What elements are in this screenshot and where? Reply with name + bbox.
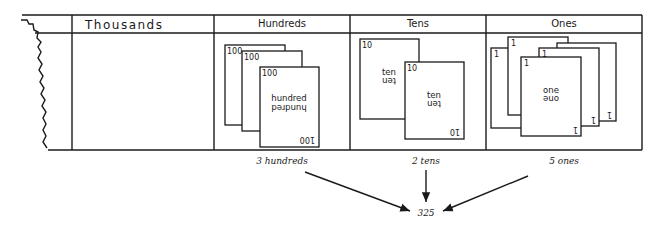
header-tens: Tens: [406, 18, 429, 29]
svg-text:10: 10: [362, 41, 372, 50]
svg-text:hundred: hundred: [271, 103, 307, 113]
svg-text:10: 10: [450, 127, 460, 136]
svg-text:ten: ten: [382, 76, 396, 86]
hundred-card: 100 hundred hundred 100: [260, 67, 319, 147]
header-hundreds: Hundreds: [258, 18, 306, 29]
svg-text:hundred: hundred: [271, 93, 307, 103]
svg-text:ten: ten: [427, 90, 441, 100]
arrow-ones: [443, 176, 528, 211]
header-ones: Ones: [551, 18, 577, 29]
svg-text:1: 1: [591, 115, 596, 124]
svg-text:1: 1: [524, 59, 529, 68]
svg-text:ten: ten: [382, 67, 396, 77]
ones-cards: 1 1 1 1 1 1 one one 1: [491, 37, 616, 136]
place-value-diagram: Thousands Hundreds Tens Ones 100 100 100…: [0, 0, 645, 229]
caption-ones: 5 ones: [549, 156, 579, 166]
one-card: 1 one one 1: [521, 57, 581, 136]
caption-tens: 2 tens: [411, 156, 440, 166]
svg-text:100: 100: [300, 135, 315, 144]
svg-text:one: one: [543, 94, 559, 104]
svg-text:1: 1: [511, 39, 516, 48]
svg-text:one: one: [543, 85, 559, 95]
ten-card: 10 ten ten 10: [405, 62, 464, 139]
result-number: 325: [417, 208, 434, 218]
caption-hundreds: 3 hundreds: [256, 156, 308, 166]
hundreds-cards: 100 100 100 hundred hundred 100: [225, 45, 319, 147]
arrow-hundreds: [305, 172, 410, 211]
svg-text:100: 100: [244, 53, 259, 62]
svg-text:100: 100: [227, 47, 242, 56]
svg-text:100: 100: [262, 69, 277, 78]
header-thousands: Thousands: [84, 18, 163, 32]
svg-text:10: 10: [407, 64, 417, 73]
svg-text:1: 1: [607, 110, 612, 119]
tens-cards: 10 ten ten 10 ten ten 10: [360, 39, 464, 139]
torn-edge: [21, 20, 47, 148]
svg-text:ten: ten: [427, 99, 441, 109]
svg-text:1: 1: [494, 50, 499, 59]
svg-text:1: 1: [573, 125, 578, 134]
